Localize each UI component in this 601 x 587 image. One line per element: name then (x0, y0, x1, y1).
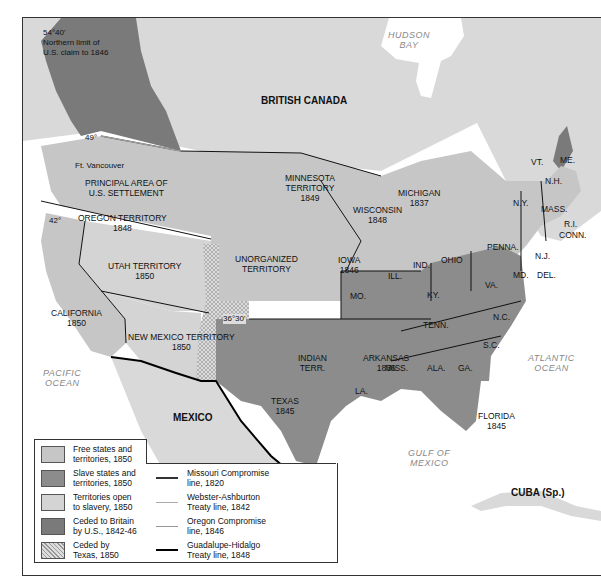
label-la: LA. (355, 386, 368, 396)
label-me: ME. (560, 155, 575, 165)
line-webster (156, 502, 178, 503)
label-49-degrees: 49° (85, 133, 97, 143)
label-northern-limit: 54°40' Northern limit of U.S. claim to 1… (43, 28, 108, 58)
legend-open: Territories open to slavery, 1850 (41, 492, 132, 512)
label-va: VA. (485, 280, 498, 290)
map-legend: Free states and territories, 1850 Slave … (34, 439, 339, 564)
label-ri: R.I. (564, 219, 577, 229)
label-minnesota: MINNESOTA TERRITORY1849 (285, 173, 335, 203)
legend-guadalupe-line: Guadalupe-Hidalgo Treaty line, 1848 (156, 540, 260, 560)
label-tenn: TENN. (423, 320, 449, 330)
label-gulf-of-mexico: GULF OF MEXICO (408, 448, 450, 468)
label-principal-area: PRINCIPAL AREA OF U.S. SETTLEMENT (85, 178, 168, 198)
label-penna: PENNA. (487, 242, 519, 252)
label-michigan: MICHIGAN1837 (398, 188, 441, 208)
label-wisconsin: WISCONSIN1848 (353, 205, 402, 225)
label-ill: ILL. (388, 271, 402, 281)
label-oregon: OREGON TERRITORY1848 (78, 213, 167, 233)
label-36-30: 36°30' (223, 314, 246, 324)
label-conn: CONN. (559, 230, 586, 240)
label-utah: UTAH TERRITORY1850 (108, 261, 182, 281)
swatch-ceded-texas (41, 542, 65, 559)
label-texas: TEXAS1845 (271, 396, 299, 416)
label-nj: N.J. (535, 251, 550, 261)
label-california: CALIFORNIA1850 (51, 308, 102, 328)
label-mo: MO. (350, 291, 366, 301)
label-cuba: CUBA (Sp.) (511, 488, 565, 498)
label-vt: VT. (531, 157, 543, 167)
line-missouri (156, 477, 178, 479)
label-nc: N.C. (493, 312, 510, 322)
swatch-slave (41, 470, 65, 487)
label-atlantic-ocean: ATLANTIC OCEAN (528, 353, 575, 373)
label-indian-terr: INDIAN TERR. (298, 353, 327, 373)
label-ky: KY. (427, 290, 440, 300)
swatch-ceded-britain (41, 518, 65, 535)
label-ind: IND. (413, 260, 430, 270)
label-british-canada: BRITISH CANADA (261, 96, 347, 106)
label-hudson-bay: HUDSON BAY (388, 30, 430, 50)
legend-oregon-line: Oregon Compromise line, 1846 (156, 516, 266, 536)
label-unorganized: UNORGANIZED TERRITORY (235, 254, 298, 274)
swatch-free (41, 446, 65, 463)
label-42-degrees: 42° (49, 216, 61, 226)
legend-webster-line: Webster-Ashburton Treaty line, 1842 (156, 492, 260, 512)
swatch-open (41, 494, 65, 511)
label-new-mexico: NEW MEXICO TERRITORY1850 (128, 332, 235, 352)
legend-free: Free states and territories, 1850 (41, 444, 132, 464)
line-oregon (156, 526, 178, 527)
label-florida: FLORIDA1845 (478, 411, 515, 431)
label-mass: MASS. (541, 204, 567, 214)
label-ft-vancouver: Ft. Vancouver (75, 161, 124, 171)
label-ohio: OHIO (441, 255, 463, 265)
label-miss: MISS. (385, 363, 408, 373)
label-md: MD. (513, 270, 529, 280)
legend-slave: Slave states and territories, 1850 (41, 468, 136, 488)
label-mexico: MEXICO (173, 413, 212, 423)
label-ny: N.Y. (513, 198, 528, 208)
label-del: DEL. (537, 270, 556, 280)
legend-ceded-britain: Ceded to Britain by U.S., 1842-46 (41, 516, 137, 536)
label-ala: ALA. (427, 363, 445, 373)
legend-missouri-line: Missouri Compromise line, 1820 (156, 468, 269, 488)
label-pacific-ocean: PACIFIC OCEAN (43, 368, 81, 388)
label-nh: N.H. (545, 176, 562, 186)
legend-ceded-texas: Ceded by Texas, 1850 (41, 540, 119, 560)
label-iowa: IOWA1846 (338, 255, 360, 275)
label-ga: GA. (458, 363, 473, 373)
line-guadalupe (156, 549, 178, 551)
label-sc: S.C. (483, 340, 500, 350)
